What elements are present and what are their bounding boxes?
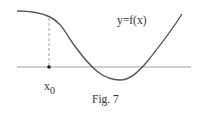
figure-caption: Fig. 7 bbox=[92, 93, 119, 106]
x0-label: x0 bbox=[44, 79, 55, 96]
x0-label-sub: 0 bbox=[50, 85, 55, 96]
figure-canvas: y=f(x) x0 Fig. 7 bbox=[0, 0, 201, 113]
function-curve bbox=[17, 11, 182, 80]
x0-point bbox=[47, 65, 51, 69]
curve-label: y=f(x) bbox=[117, 14, 147, 27]
